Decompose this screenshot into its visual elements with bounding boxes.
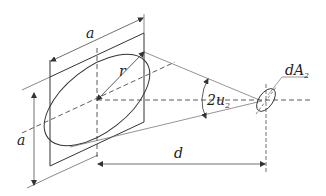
label-a-top: a <box>86 25 94 41</box>
view-factor-diagram: a a r 2u2 d dA2 <box>0 0 326 196</box>
label-d: d <box>174 145 183 161</box>
extension-lines <box>22 14 144 188</box>
label-dA2: dA2 <box>285 62 309 80</box>
center-axes <box>22 48 310 160</box>
label-angle: 2u2 <box>206 92 230 110</box>
view-cone-rays <box>70 52 262 147</box>
label-a-left: a <box>17 132 25 148</box>
target-area-element <box>253 77 308 172</box>
